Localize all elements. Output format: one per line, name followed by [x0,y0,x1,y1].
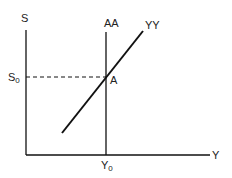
yy-label: YY [145,19,160,31]
aa-yy-diagram: S Y AA YY A S0 Y0 [0,0,232,178]
equilibrium-point-label: A [110,74,118,86]
yy-curve [62,31,143,133]
y0-label: Y0 [101,159,113,173]
y-axis-label: S [21,12,28,24]
s0-label: S0 [8,71,20,85]
aa-label: AA [104,17,119,29]
x-axis-label: Y [212,149,220,161]
